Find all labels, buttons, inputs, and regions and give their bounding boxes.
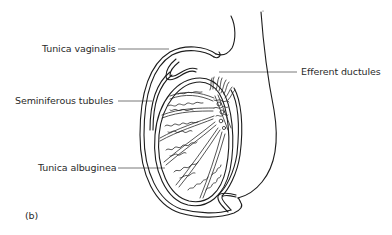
panel-label: (b): [25, 211, 38, 221]
label-tunica-albuginea: Tunica albuginea: [38, 163, 116, 173]
testis-illustration: [0, 0, 392, 235]
scrotal-wall: [216, 10, 276, 198]
testis-diagram: Tunica vaginalis Seminiferous tubules Tu…: [0, 0, 392, 235]
label-seminiferous-tubules: Seminiferous tubules: [15, 96, 113, 106]
label-efferent-ductules: Efferent ductules: [301, 67, 381, 77]
tunica-albuginea: [155, 78, 233, 206]
label-tunica-vaginalis: Tunica vaginalis: [42, 44, 116, 54]
